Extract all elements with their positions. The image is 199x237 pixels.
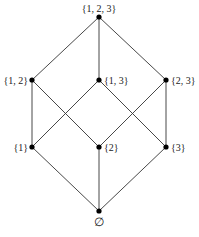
edge-n123-n12	[32, 17, 99, 80]
node-n1	[29, 144, 34, 149]
edges-group	[32, 17, 166, 211]
edge-n3-n0	[99, 147, 166, 211]
node-label-n13: {1, 3}	[104, 75, 129, 86]
node-n12	[29, 77, 34, 82]
node-n0	[96, 208, 101, 213]
hasse-diagram: {1, 2, 3}{1, 2}{1, 3}{2, 3}{1}{2}{3}∅	[0, 0, 199, 237]
node-label-n2: {2}	[104, 142, 119, 153]
node-label-n3: {3}	[171, 142, 186, 153]
node-n23	[163, 77, 168, 82]
node-n2	[96, 144, 101, 149]
node-label-n0: ∅	[94, 215, 104, 229]
node-label-n123: {1, 2, 3}	[82, 3, 117, 14]
node-label-n1: {1}	[13, 142, 28, 153]
node-label-n23: {2, 3}	[171, 75, 196, 86]
node-n13	[96, 77, 101, 82]
edge-n123-n23	[99, 17, 166, 80]
edge-n1-n0	[32, 147, 99, 211]
node-n123	[96, 14, 101, 19]
node-label-n12: {1, 2}	[3, 75, 28, 86]
node-n3	[163, 144, 168, 149]
